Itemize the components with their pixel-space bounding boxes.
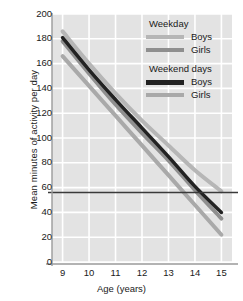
activity-by-age-chart: Mean minutes of activity per day 2001801… — [0, 0, 243, 301]
x-tick-label: 14 — [184, 268, 206, 278]
chart-legend: WeekdayBoysGirlsWeekend daysBoysGirls — [146, 18, 238, 102]
x-tick-label: 11 — [105, 268, 127, 278]
legend-group-title: Weekday — [149, 18, 238, 29]
legend-item: Girls — [146, 44, 238, 56]
x-axis-title: Age (years) — [0, 283, 243, 294]
legend-group-title: Weekend days — [149, 63, 238, 74]
legend-swatch-icon — [146, 48, 184, 52]
x-tick-label: 15 — [210, 268, 232, 278]
legend-item-label: Boys — [191, 76, 212, 88]
legend-swatch-icon — [146, 80, 184, 85]
x-tick-label: 13 — [157, 268, 179, 278]
x-tick-label: 12 — [131, 268, 153, 278]
legend-item: Girls — [146, 89, 238, 101]
x-tick-label: 9 — [52, 268, 74, 278]
legend-item-label: Boys — [191, 31, 212, 43]
legend-item: Boys — [146, 76, 238, 88]
legend-item: Boys — [146, 31, 238, 43]
x-tick-label: 10 — [78, 268, 100, 278]
legend-swatch-icon — [146, 93, 184, 97]
legend-item-label: Girls — [191, 44, 211, 56]
legend-item-label: Girls — [191, 89, 211, 101]
legend-swatch-icon — [146, 35, 184, 39]
